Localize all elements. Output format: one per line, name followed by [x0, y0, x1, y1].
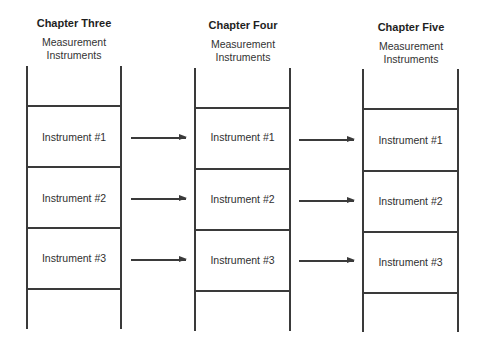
instrument-cell-label: Instrument #3 — [26, 252, 122, 264]
arrowhead-icon — [179, 195, 187, 201]
arrowhead-icon — [347, 197, 355, 203]
ladder-rung — [26, 105, 122, 107]
ladder-subtitle-line1: Measurement — [163, 38, 323, 51]
arrow-right-icon — [131, 137, 186, 139]
ladder-rung — [362, 108, 459, 110]
instrument-cell-label: Instrument #1 — [194, 131, 291, 143]
arrowhead-icon — [179, 256, 187, 262]
ladder-rung — [26, 288, 122, 290]
instrument-cell-label: Instrument #3 — [194, 254, 291, 266]
ladder-title: Chapter Five — [331, 21, 482, 33]
ladder-subtitle-line1: Measurement — [0, 36, 154, 49]
ladder-rung — [362, 231, 459, 233]
ladder-rung — [362, 292, 459, 294]
arrowhead-icon — [179, 134, 187, 140]
arrow-right-icon — [131, 259, 186, 261]
ladder-title: Chapter Three — [0, 17, 154, 29]
ladder-subtitle-line2: Instruments — [0, 49, 154, 62]
ladder-rung — [362, 170, 459, 172]
ladder-rung — [194, 290, 291, 292]
instrument-cell-label: Instrument #2 — [362, 195, 459, 207]
arrow-right-icon — [299, 260, 354, 262]
ladder-rung — [26, 166, 122, 168]
arrowhead-icon — [347, 257, 355, 263]
arrow-right-icon — [131, 198, 186, 200]
instrument-cell-label: Instrument #2 — [194, 193, 291, 205]
ladder-rung — [194, 168, 291, 170]
ladder-subtitle-line1: Measurement — [331, 40, 482, 53]
ladder-subtitle-line2: Instruments — [331, 53, 482, 66]
ladder-title: Chapter Four — [163, 19, 323, 31]
instrument-cell-label: Instrument #1 — [362, 134, 459, 146]
instrument-cell-label: Instrument #1 — [26, 131, 122, 143]
arrow-right-icon — [299, 139, 354, 141]
instrument-cell-label: Instrument #3 — [362, 256, 459, 268]
ladder-rung — [26, 227, 122, 229]
chapter-instrument-diagram: Chapter Three Measurement Instruments In… — [0, 0, 482, 351]
instrument-cell-label: Instrument #2 — [26, 192, 122, 204]
ladder-rung — [194, 107, 291, 109]
ladder-rung — [194, 229, 291, 231]
arrow-right-icon — [299, 200, 354, 202]
arrowhead-icon — [347, 136, 355, 142]
ladder-subtitle-line2: Instruments — [163, 51, 323, 64]
